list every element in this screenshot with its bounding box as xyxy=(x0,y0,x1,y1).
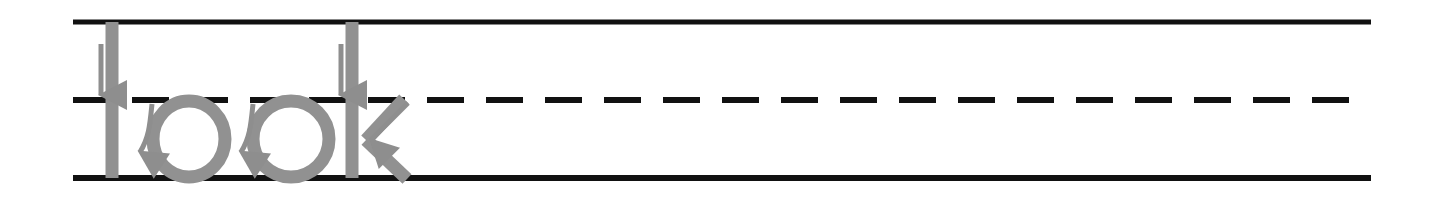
handwriting-worksheet: look xyxy=(0,0,1437,206)
worksheet-canvas xyxy=(0,0,1437,206)
tracing-letter-k-leg xyxy=(366,140,407,179)
guide-lines-group xyxy=(73,22,1371,178)
tracing-letter-o-second xyxy=(253,101,329,177)
tracing-letter-o-first xyxy=(153,101,225,177)
tracing-letter-k-arm xyxy=(366,99,404,140)
